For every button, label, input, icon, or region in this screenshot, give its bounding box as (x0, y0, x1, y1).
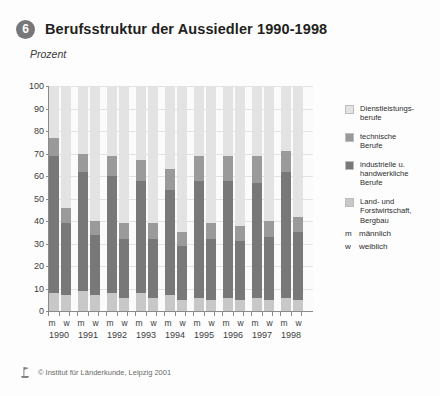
bar-segment (264, 237, 274, 300)
x-label-spacer (273, 318, 280, 342)
bar-segment (90, 86, 100, 221)
x-axis-tick-label: 1995 (194, 329, 214, 342)
x-axis-tick-mark (233, 312, 234, 316)
x-axis-labels: mw1990mw1991mw1992mw1993mw1994mw1995mw19… (48, 318, 312, 342)
legend-label: Dienstleistungs- berufe (360, 104, 414, 123)
bar-1995-m (194, 86, 204, 311)
bar-series-container (49, 86, 313, 311)
bar-segment (206, 223, 216, 239)
bar-segment (264, 221, 274, 237)
bar-segment (78, 86, 88, 154)
bar-group-1998 (281, 86, 303, 311)
bar-segment (206, 86, 216, 223)
legend-item-0: Dienstleistungs- berufe (345, 104, 437, 123)
legend-label: industrielle u. handwerkliche Berufe (360, 160, 409, 188)
legend-gender-key: mmännlichwweiblich (345, 228, 391, 253)
bar-1991-m (78, 86, 88, 311)
bar-segment (107, 86, 117, 156)
x-label-group-1998: mw1998 (280, 318, 302, 342)
x-axis-tick-label: 1998 (281, 329, 301, 342)
x-subcategory-row: mw (280, 318, 301, 329)
bar-segment (252, 183, 262, 298)
bar-segment (49, 156, 59, 293)
y-axis-tick-label: 10 (34, 284, 44, 294)
legend-swatch (345, 161, 354, 170)
bar-group-1996 (223, 86, 245, 311)
x-tick-group (77, 312, 99, 316)
x-axis-tick-mark (88, 312, 89, 316)
chart-figure: 6 Berufsstruktur der Aussiedler 1990-199… (0, 0, 440, 396)
bar-1992-w (119, 86, 129, 311)
x-axis-tick-label: 1991 (78, 329, 98, 342)
bar-segment (165, 295, 175, 311)
y-axis-tick-label: 50 (34, 194, 44, 204)
bar-segment (293, 217, 303, 233)
bar-group-1993 (136, 86, 158, 311)
x-label-spacer (186, 318, 193, 342)
y-axis-tick-label: 70 (34, 149, 44, 159)
x-label-spacer (157, 318, 164, 342)
bar-segment (78, 291, 88, 311)
bar-group-1990 (49, 86, 71, 311)
bar-segment (194, 298, 204, 312)
x-subcategory-label: w (92, 318, 98, 329)
x-subcategory-label: w (208, 318, 214, 329)
y-axis-tick-label: 20 (34, 261, 44, 271)
x-tick-spacer (157, 312, 164, 316)
x-tick-spacer (215, 312, 222, 316)
x-subcategory-row: mw (251, 318, 272, 329)
bar-segment (281, 86, 291, 151)
y-axis-tick-label: 60 (34, 171, 44, 181)
bar-group-1997 (252, 86, 274, 311)
x-axis: mw1990mw1991mw1992mw1993mw1994mw1995mw19… (48, 312, 312, 346)
x-axis-tick-mark (146, 312, 147, 316)
x-subcategory-row: mw (135, 318, 156, 329)
x-subcategory-label: m (77, 318, 84, 329)
x-tick-group (106, 312, 128, 316)
bar-segment (90, 235, 100, 296)
bar-segment (148, 86, 158, 223)
x-label-spacer (99, 318, 106, 342)
bar-segment (148, 298, 158, 312)
x-subcategory-label: w (295, 318, 301, 329)
y-axis-tick-label: 80 (34, 126, 44, 136)
y-axis-tick-label: 100 (29, 81, 44, 91)
x-subcategory-row: mw (106, 318, 127, 329)
x-axis-tick-label: 1992 (107, 329, 127, 342)
bar-1995-w (206, 86, 216, 311)
bar-1996-w (235, 86, 245, 311)
y-axis-tick-label: 90 (34, 104, 44, 114)
bar-segment (61, 86, 71, 208)
legend-item-1: technische Berufe (345, 132, 437, 151)
bar-segment (136, 86, 146, 160)
bar-1994-w (177, 86, 187, 311)
bar-segment (148, 223, 158, 239)
bar-segment (107, 176, 117, 293)
bar-segment (177, 86, 187, 232)
x-axis-tick-label: 1994 (165, 329, 185, 342)
x-label-group-1990: mw1990 (48, 318, 70, 342)
bar-segment (194, 156, 204, 181)
legend-label: technische Berufe (360, 132, 396, 151)
gender-key-symbol: m (345, 228, 352, 241)
bar-1994-m (165, 86, 175, 311)
bar-segment (61, 295, 71, 311)
x-axis-tick-mark (106, 312, 107, 316)
x-subcategory-label: m (222, 318, 229, 329)
bar-segment (78, 154, 88, 172)
x-axis-tick-mark (251, 312, 252, 316)
legend-label: Land- und Forstwirtschaft, Bergbau (360, 197, 411, 225)
x-axis-tick-mark (59, 312, 60, 316)
bar-1998-w (293, 86, 303, 311)
x-tick-spacer (244, 312, 251, 316)
x-subcategory-label: m (164, 318, 171, 329)
legend-item-3: Land- und Forstwirtschaft, Bergbau (345, 197, 437, 225)
x-label-group-1993: mw1993 (135, 318, 157, 342)
bar-segment (177, 232, 187, 246)
x-tick-group (222, 312, 244, 316)
bar-1993-m (136, 86, 146, 311)
x-axis-tick-label: 1997 (252, 329, 272, 342)
copyright-text: © Institut für Länderkunde, Leipzig 2001 (38, 368, 171, 377)
bar-segment (165, 190, 175, 296)
x-tick-spacer (186, 312, 193, 316)
